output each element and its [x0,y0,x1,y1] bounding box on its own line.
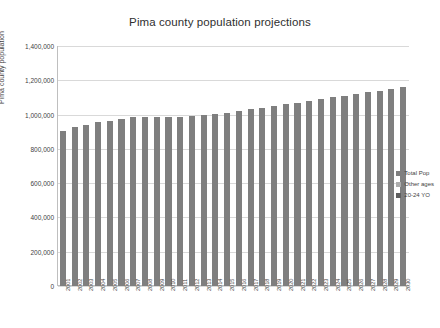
x-axis-tick-label: 2023 [323,279,329,291]
y-axis-tick-label: 1,400,000 [25,43,54,50]
bar-column [271,46,277,286]
bar [107,121,113,286]
x-axis-tick-label: 2006 [124,279,130,291]
bar-column [154,46,160,286]
chart-container: Pima county population projections 0200,… [0,0,440,328]
bar-column [142,46,148,286]
legend-item: Other ages [396,179,434,190]
bar-column [353,46,359,286]
x-axis-tick-label: 2026 [358,279,364,291]
bar [189,116,195,286]
bar-column [330,46,336,286]
bar [130,117,136,286]
bar-column [259,46,265,286]
bar [259,108,265,286]
bar [388,89,394,286]
bar [72,127,78,286]
bar [248,109,254,286]
x-axis-tick-label: 2008 [147,279,153,291]
bar [154,117,160,286]
bar-column [365,46,371,286]
bar-series-group [57,46,409,286]
bar-column [189,46,195,286]
bar-column [177,46,183,286]
x-axis-tick-label: 2005 [112,279,118,291]
bar [294,103,300,286]
bar [201,115,207,286]
x-axis-tick-label: 2014 [217,279,223,291]
bar [224,113,230,286]
x-axis-tick-label: 2022 [311,279,317,291]
bar [83,125,89,286]
chart-title: Pima county population projections [0,16,440,28]
bar-column [130,46,136,286]
bar-column [388,46,394,286]
bar-column [377,46,383,286]
bar-column [318,46,324,286]
bar [341,96,347,286]
bar-column [400,46,406,286]
bar-column [236,46,242,286]
bar-column [224,46,230,286]
bar [283,104,289,286]
bar [142,117,148,286]
legend-swatch [396,171,401,176]
y-axis-title: Pima county population [0,0,5,104]
bar-column [118,46,124,286]
x-axis-tick-label: 2030 [405,279,411,291]
x-axis-tick-label: 2009 [159,279,165,291]
bar-column [248,46,254,286]
bar-column [165,46,171,286]
legend-swatch [396,182,401,187]
bar-column [95,46,101,286]
bar [318,99,324,286]
bar-column [306,46,312,286]
legend-label: 20-24 YO [404,190,430,201]
bar [377,91,383,286]
x-axis-tick-label: 2007 [135,279,141,291]
bar [236,111,242,286]
x-axis-tick-label: 2015 [229,279,235,291]
x-axis-tick-label: 2027 [370,279,376,291]
x-axis-tick-label: 2017 [253,279,259,291]
bar [271,106,277,286]
x-axis-tick-label: 2010 [170,279,176,291]
y-axis-tick-label: 600,000 [31,180,55,187]
bar [95,122,101,286]
y-axis-tick-label: 800,000 [31,145,55,152]
x-axis-tick-label: 2013 [206,279,212,291]
bar-column [212,46,218,286]
bar-column [294,46,300,286]
bar [365,92,371,286]
legend-label: Total Pop [404,168,429,179]
x-axis-tick-label: 2018 [264,279,270,291]
legend-swatch [396,193,401,198]
bar-column [107,46,113,286]
legend-item: Total Pop [396,168,434,179]
x-axis-tick-label: 2019 [276,279,282,291]
x-axis-tick-label: 2001 [65,279,71,291]
x-axis-tick-label: 2020 [288,279,294,291]
bar [165,117,171,286]
y-axis-tick-label: 0 [50,283,54,290]
x-axis-tick-label: 2028 [382,279,388,291]
x-axis-tick-label: 2021 [300,279,306,291]
x-axis-tick-label: 2002 [77,279,83,291]
bar [353,94,359,286]
bar-column [341,46,347,286]
bar [212,114,218,286]
chart-legend: Total PopOther ages20-24 YO [396,168,434,201]
bar-column [83,46,89,286]
bar [177,117,183,286]
y-axis-tick-label: 200,000 [31,248,55,255]
y-axis-tick-label: 1,200,000 [25,77,54,84]
x-axis-tick-label: 2004 [100,279,106,291]
legend-item: 20-24 YO [396,190,434,201]
bar-column [72,46,78,286]
bar [118,119,124,286]
bar-column [283,46,289,286]
y-axis-tick-label: 1,000,000 [25,111,54,118]
y-axis-tick-label: 400,000 [31,214,55,221]
bar-column [60,46,66,286]
x-axis-tick-label: 2016 [241,279,247,291]
